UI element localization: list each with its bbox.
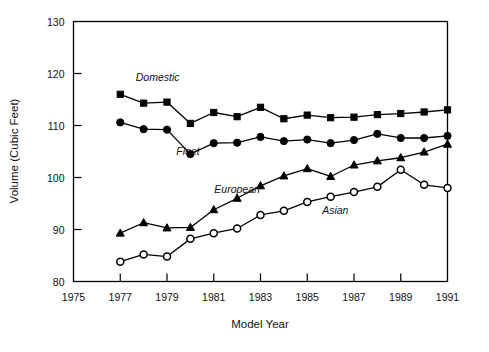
x-tick-label: 1981 — [202, 291, 226, 303]
series-annotation-asian: Asian — [321, 204, 348, 216]
data-point-domestic — [234, 114, 240, 120]
line-chart: 8090100110120130 19751977197919811983198… — [0, 0, 489, 352]
data-point-asian — [257, 211, 264, 218]
x-tick-label: 1983 — [249, 291, 273, 303]
data-point-asian — [351, 189, 358, 196]
data-point-fleet — [421, 134, 428, 141]
x-axis-ticks — [120, 274, 401, 282]
data-point-domestic — [281, 116, 287, 122]
data-point-domestic — [421, 109, 427, 115]
data-point-fleet — [374, 130, 381, 137]
series-markers — [116, 91, 451, 265]
x-tick-label: 1979 — [155, 291, 179, 303]
x-tick-label: 1977 — [109, 291, 133, 303]
x-tick-label: 1975 — [62, 291, 86, 303]
data-point-fleet — [280, 138, 287, 145]
y-tick-label: 110 — [48, 120, 65, 132]
data-point-asian — [421, 181, 428, 188]
y-axis-tick-labels: 8090100110120130 — [47, 16, 65, 288]
data-point-fleet — [163, 126, 170, 133]
data-point-asian — [444, 184, 451, 191]
plot-frame — [74, 22, 448, 282]
data-point-european — [210, 206, 218, 213]
y-tick-label: 90 — [53, 224, 65, 236]
data-point-asian — [304, 198, 311, 205]
data-point-fleet — [117, 119, 124, 126]
data-point-fleet — [257, 133, 264, 140]
data-point-domestic — [398, 110, 404, 116]
data-point-fleet — [304, 136, 311, 143]
series-line-asian — [120, 170, 447, 262]
series-annotation-domestic: Domestic — [136, 71, 181, 83]
data-point-asian — [140, 251, 147, 258]
x-axis-title: Model Year — [231, 318, 289, 330]
chart-container: 8090100110120130 19751977197919811983198… — [0, 0, 489, 352]
y-tick-label: 120 — [47, 68, 65, 80]
data-point-domestic — [351, 114, 357, 120]
data-point-asian — [164, 253, 171, 260]
data-point-european — [303, 164, 311, 171]
data-point-fleet — [140, 126, 147, 133]
y-tick-label: 80 — [53, 276, 65, 288]
data-point-domestic — [187, 120, 193, 126]
y-axis-title: Volume (Cubic Feet) — [8, 98, 20, 203]
data-point-domestic — [304, 112, 310, 118]
data-point-domestic — [328, 115, 334, 121]
data-point-european — [186, 223, 194, 230]
data-point-fleet — [234, 139, 241, 146]
data-point-european — [444, 140, 452, 147]
data-point-domestic — [444, 107, 450, 113]
x-tick-label: 1989 — [389, 291, 413, 303]
data-point-fleet — [327, 140, 334, 147]
x-tick-label: 1987 — [342, 291, 366, 303]
data-point-domestic — [117, 91, 123, 97]
data-point-domestic — [141, 100, 147, 106]
data-point-asian — [280, 207, 287, 214]
data-point-asian — [187, 235, 194, 242]
data-point-fleet — [397, 134, 404, 141]
y-tick-label: 100 — [47, 172, 65, 184]
data-point-fleet — [444, 132, 451, 139]
data-point-asian — [374, 183, 381, 190]
data-point-asian — [397, 166, 404, 173]
series-annotation-fleet: Fleet — [176, 145, 200, 157]
data-point-domestic — [164, 99, 170, 105]
y-tick-label: 130 — [47, 16, 65, 28]
data-point-european — [140, 219, 148, 226]
data-point-domestic — [374, 111, 380, 117]
data-point-asian — [210, 230, 217, 237]
data-point-asian — [234, 225, 241, 232]
x-tick-label: 1985 — [296, 291, 320, 303]
data-point-domestic — [257, 104, 263, 110]
data-point-fleet — [210, 140, 217, 147]
y-axis-ticks — [74, 74, 82, 230]
x-axis-tick-labels: 197519771979198119831985198719891991 — [62, 291, 460, 303]
data-point-fleet — [350, 136, 357, 143]
data-point-asian — [117, 258, 124, 265]
series-annotations: DomesticFleetEuropeanAsian — [136, 71, 349, 216]
x-tick-label: 1991 — [436, 291, 460, 303]
data-point-domestic — [211, 109, 217, 115]
data-point-asian — [327, 193, 334, 200]
series-annotation-european: European — [214, 183, 260, 195]
data-point-european — [233, 194, 241, 201]
